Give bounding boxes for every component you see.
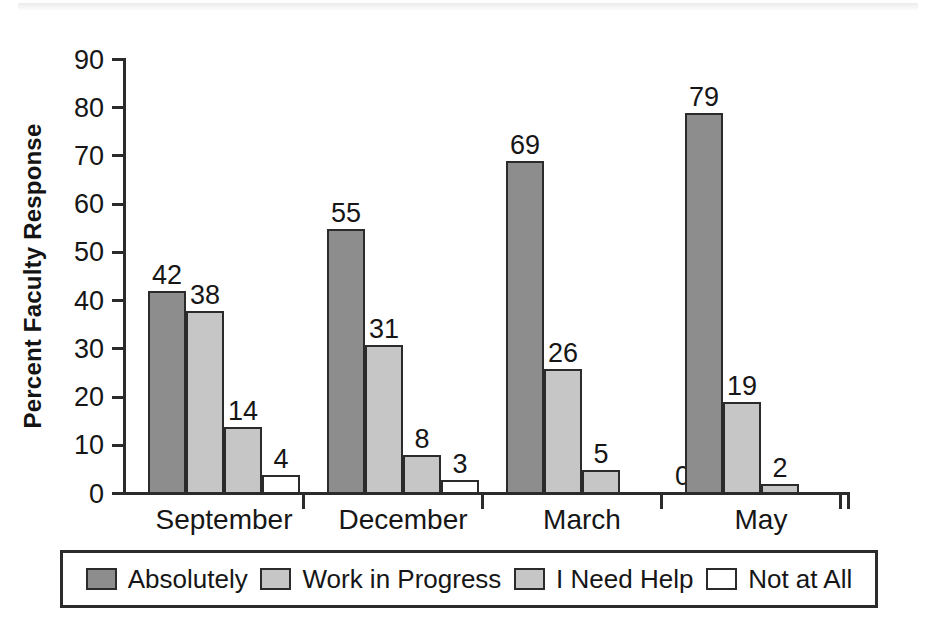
scan-artifact <box>18 3 918 10</box>
x-axis-tick <box>302 495 305 509</box>
y-axis-tick: 10 <box>112 444 123 447</box>
x-axis-category-label: May <box>735 506 788 534</box>
bar-value-label: 31 <box>369 316 399 343</box>
x-axis-tick <box>660 495 663 509</box>
bar: 31 <box>365 345 403 494</box>
bar: 55 <box>327 229 365 494</box>
legend-item-label: Work in Progress <box>302 566 501 592</box>
bar: 42 <box>148 291 186 494</box>
y-axis-tick-label: 0 <box>89 480 104 507</box>
y-axis-tick-label: 10 <box>74 432 104 459</box>
plot-area: 0102030405060708090 42381445531836926507… <box>123 58 850 494</box>
bar-value-label: 4 <box>273 446 288 473</box>
bar: 69 <box>506 161 544 494</box>
x-axis-category-label: December <box>338 506 467 534</box>
bar-value-label: 19 <box>727 373 757 400</box>
legend-item[interactable]: Absolutely <box>86 566 248 592</box>
bar-value-label: 2 <box>772 455 787 482</box>
legend-swatch-icon <box>706 568 737 590</box>
legend-item-label: Absolutely <box>128 566 248 592</box>
y-axis-tick-label: 50 <box>74 239 104 266</box>
legend-swatch-icon <box>86 568 117 590</box>
x-axis-category-label: March <box>543 506 621 534</box>
legend-item-label: Not at All <box>748 566 852 592</box>
y-axis-tick: 0 <box>112 492 123 495</box>
bar-value-label: 79 <box>689 84 719 111</box>
legend-item[interactable]: Work in Progress <box>260 566 501 592</box>
legend-item[interactable]: Not at All <box>706 566 852 592</box>
bar: 8 <box>403 455 441 494</box>
legend-swatch-icon <box>514 568 545 590</box>
bar: 3 <box>441 480 479 494</box>
bar-value-label: 55 <box>331 200 361 227</box>
y-axis-tick-label: 70 <box>74 142 104 169</box>
bar: 19 <box>723 402 761 494</box>
y-axis-tick-label: 20 <box>74 384 104 411</box>
y-axis-tick-label: 30 <box>74 335 104 362</box>
y-axis-tick: 20 <box>112 396 123 399</box>
bar-value-label: 5 <box>593 441 608 468</box>
y-axis-tick-label: 40 <box>74 287 104 314</box>
x-axis-end-tick <box>847 495 850 509</box>
bar: 26 <box>544 369 582 494</box>
x-axis-tick <box>839 495 842 509</box>
y-axis-tick: 80 <box>112 106 123 109</box>
bar: 14 <box>224 427 262 495</box>
bar: 79 <box>685 113 723 494</box>
legend-item[interactable]: I Need Help <box>514 566 693 592</box>
y-axis-tick: 70 <box>112 154 123 157</box>
y-axis-tick: 60 <box>112 203 123 206</box>
legend-swatch-icon <box>260 568 291 590</box>
bar: 5 <box>582 470 620 494</box>
bar-value-label: 26 <box>548 340 578 367</box>
bar: 38 <box>186 311 224 494</box>
bar: 4 <box>262 475 300 494</box>
y-axis-tick-label: 60 <box>74 191 104 218</box>
bar: 2 <box>761 484 799 494</box>
x-axis-tick <box>481 495 484 509</box>
y-axis-tick: 90 <box>112 58 123 61</box>
x-axis-category-label: September <box>156 506 293 534</box>
chart-legend: Absolutely Work in Progress I Need Help … <box>60 550 878 608</box>
y-axis-tick-label: 90 <box>74 46 104 73</box>
y-axis-tick: 40 <box>112 299 123 302</box>
bar-value-label: 42 <box>152 262 182 289</box>
bar-value-label: 38 <box>190 282 220 309</box>
y-axis-tick: 50 <box>112 251 123 254</box>
y-axis-tick-label: 80 <box>74 94 104 121</box>
legend-item-label: I Need Help <box>556 566 693 592</box>
bar-value-label: 8 <box>414 426 429 453</box>
y-axis-title: Percent Faculty Response <box>16 58 50 494</box>
bar-value-label: 3 <box>452 451 467 478</box>
bar-chart-figure: Percent Faculty Response 010203040506070… <box>0 0 936 638</box>
y-axis-tick: 30 <box>112 347 123 350</box>
bar-value-label: 69 <box>510 132 540 159</box>
bar-value-label: 14 <box>228 398 258 425</box>
y-axis-line <box>123 58 126 495</box>
